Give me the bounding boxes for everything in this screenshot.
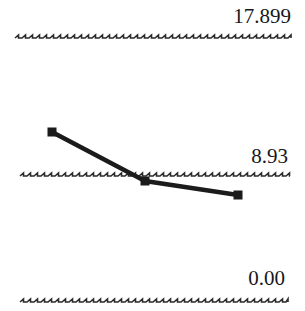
data-point-marker: [234, 191, 243, 200]
gridline-bottom: [20, 299, 288, 302]
gridlines-group: [15, 35, 291, 302]
data-markers-group: [48, 128, 243, 200]
data-series-group: [52, 132, 238, 195]
y-axis-label-top: 17.899: [233, 5, 291, 27]
series-segment: [145, 181, 238, 195]
y-axis-label-bottom: 0.00: [248, 267, 285, 289]
data-point-marker: [48, 128, 57, 137]
chart-container: 17.899 8.93 0.00: [0, 0, 305, 311]
y-axis-label-middle: 8.93: [251, 145, 288, 167]
gridline-middle: [20, 173, 290, 176]
gridline-top: [15, 35, 291, 38]
data-point-marker: [141, 177, 150, 186]
